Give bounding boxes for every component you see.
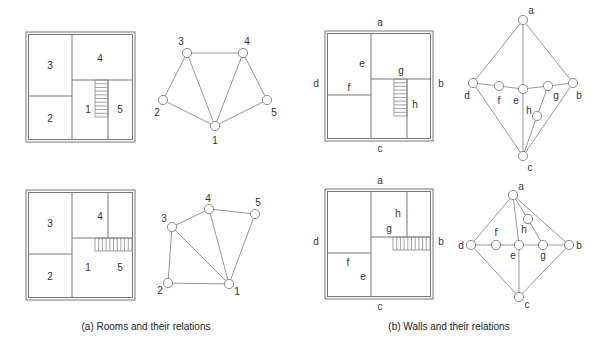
graph-edge-3-1: [172, 227, 229, 284]
wall-label: d: [313, 78, 319, 89]
graph-node-label-b: b: [576, 240, 582, 251]
wall-graph-bottom: abcdefgh: [458, 181, 582, 310]
graph-edge-a-b: [523, 20, 573, 83]
graph-node-label-2: 2: [157, 285, 163, 296]
inner-wall: [328, 34, 431, 139]
graph-node-b: [564, 240, 573, 249]
graph-node-label-g: g: [540, 250, 546, 261]
wall-label: h: [412, 99, 418, 110]
caption-rooms: (a) Rooms and their relations: [82, 321, 211, 332]
graph-node-d: [468, 78, 477, 87]
graph-node-label-d: d: [458, 240, 464, 251]
graph-edge-a-b: [513, 195, 569, 245]
caption-walls: (b) Walls and their relations: [388, 321, 509, 332]
graph-edge-3-4: [172, 209, 209, 227]
graph-edge-5-1: [229, 214, 255, 284]
graph-node-label-g: g: [553, 90, 559, 101]
wall-label: e: [360, 271, 366, 282]
room-label: 1: [85, 262, 91, 273]
graph-node-f: [491, 240, 500, 249]
graph-node-5: [250, 209, 259, 218]
graph-node-label-5: 5: [271, 107, 277, 118]
staircase: [95, 238, 132, 251]
graph-node-1: [224, 279, 233, 288]
inner-wall: [29, 35, 133, 140]
wall-label: h: [395, 208, 401, 219]
staircase: [393, 237, 430, 250]
staircase: [394, 79, 407, 116]
outer-wall: [325, 31, 433, 141]
graph-node-label-h: h: [526, 105, 532, 116]
staircase: [95, 80, 108, 117]
graph-node-label-b: b: [576, 90, 582, 101]
graph-edge-2-1: [163, 100, 215, 126]
graph-node-label-a: a: [518, 181, 524, 192]
wall-plan-bottom: a b c d e f g h: [313, 175, 444, 312]
graph-node-c: [514, 292, 523, 301]
wall-label: f: [347, 257, 350, 268]
graph-node-label-1: 1: [234, 286, 240, 297]
graph-node-a: [508, 190, 517, 199]
graph-node-2: [158, 95, 167, 104]
graph-edge-3-2: [163, 53, 187, 100]
graph-node-h: [523, 214, 532, 223]
wall-label: f: [348, 82, 351, 93]
graph-node-label-4: 4: [205, 193, 211, 204]
graph-edge-a-d: [471, 195, 513, 245]
graph-node-g: [543, 81, 552, 90]
graph-node-g: [538, 240, 547, 249]
graph-edge-4-5: [243, 53, 267, 100]
graph-node-e: [514, 240, 523, 249]
graph-edge-h-c: [523, 116, 537, 156]
graph-node-label-1: 1: [212, 135, 218, 146]
wall-graph-top: abcdefgh: [464, 5, 582, 173]
room-label: 5: [117, 104, 123, 115]
graph-node-label-a: a: [528, 5, 534, 16]
figure: 3 4 2 1 5 3 4 2 1 5 a b c d e f g h: [0, 0, 604, 352]
graph-node-e: [518, 84, 527, 93]
wall-label: a: [377, 17, 383, 28]
graph-node-label-2: 2: [154, 107, 160, 118]
wall-label: b: [438, 236, 444, 247]
room-graph-bottom: 12345: [157, 193, 261, 297]
wall-label: a: [377, 175, 383, 186]
room-label: 4: [97, 211, 103, 222]
outer-wall: [26, 190, 135, 300]
room-graph-top: 12345: [154, 36, 277, 146]
graph-edge-d-c: [473, 83, 523, 156]
wall-label: d: [313, 236, 319, 247]
room-label: 2: [47, 113, 53, 124]
graph-node-1: [210, 121, 219, 130]
room-label: 2: [47, 271, 53, 282]
graph-node-3: [167, 222, 176, 231]
wall-label: b: [438, 78, 444, 89]
wall-label: c: [378, 301, 383, 312]
graph-node-label-f: f: [495, 227, 498, 238]
room-plan-bottom: 3 4 2 1 5: [26, 190, 135, 300]
graph-node-label-3: 3: [178, 36, 184, 47]
graph-node-label-e: e: [513, 95, 519, 106]
graph-node-f: [494, 81, 503, 90]
graph-edge-4-1: [215, 53, 243, 126]
graph-edge-5-1: [215, 100, 267, 126]
graph-edge-2-1: [168, 283, 229, 284]
graph-edge-3-2: [168, 227, 172, 283]
graph-node-c: [518, 151, 527, 160]
graph-node-d: [466, 240, 475, 249]
room-label: 3: [47, 218, 53, 229]
wall-label: g: [398, 65, 404, 76]
room-label: 4: [97, 53, 103, 64]
graph-edge-a-d: [473, 20, 523, 83]
graph-node-3: [182, 48, 191, 57]
graph-node-2: [163, 278, 172, 287]
graph-node-label-e: e: [510, 250, 516, 261]
graph-node-5: [262, 95, 271, 104]
wall-label: e: [359, 58, 365, 69]
graph-edge-b-c: [523, 83, 573, 156]
graph-node-h: [532, 111, 541, 120]
wall-label: g: [386, 223, 392, 234]
room-label: 1: [85, 104, 91, 115]
graph-edge-4-5: [209, 209, 255, 214]
graph-node-label-c: c: [525, 299, 530, 310]
graph-node-label-c: c: [528, 162, 533, 173]
